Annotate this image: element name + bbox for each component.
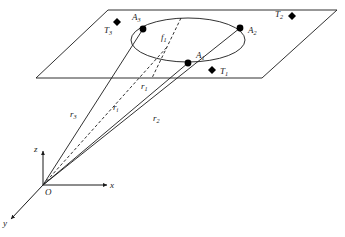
ray-r3 [43, 29, 143, 185]
focal-line-label: f1 [161, 32, 167, 43]
x-axis-label: x [109, 180, 114, 190]
ray-r2 [43, 28, 240, 185]
point-label-A3: A3 [131, 12, 141, 23]
y-axis-label: y [2, 218, 7, 228]
axis-labels: xyzO [2, 144, 114, 228]
ray-r1 [43, 63, 188, 185]
ray-ri [43, 47, 167, 185]
point-label-A2-subscript: 2 [254, 29, 257, 36]
plane-outline [36, 10, 337, 78]
point-label-A3-subscript: 3 [137, 16, 141, 23]
point-label-A1-subscript: 1 [202, 54, 205, 61]
point-label-T1-subscript: 1 [225, 70, 228, 77]
ray-label-ri: ri [113, 102, 119, 113]
point-marker-T3 [113, 18, 121, 26]
point-marker-T1 [208, 66, 216, 74]
ray-label-r3-subscript: 3 [73, 113, 77, 120]
ray-label-ri-subscript: i [117, 106, 119, 113]
ray-label-r3: r3 [70, 109, 77, 120]
point-marker-T2 [288, 12, 296, 20]
footprint-ellipse [131, 18, 245, 62]
point-label-T3-subscript: 3 [108, 29, 112, 36]
ellipse-outline [131, 18, 245, 62]
point-label-T2: T2 [275, 9, 283, 20]
ray-label-r1-subscript: 1 [145, 85, 148, 92]
y-axis [11, 185, 43, 219]
point-label-T2-subscript: 2 [280, 13, 283, 20]
geometry-diagram: r3rir1r2 f1 A1A2A3T1T2T3 xyzO [0, 0, 345, 237]
ray-label-r1: r1 [141, 81, 148, 92]
point-marker-A1 [185, 60, 192, 67]
coordinate-axes [11, 151, 107, 219]
point-label-A1: A1 [195, 50, 205, 61]
focal-line-label-subscript: 1 [164, 36, 167, 43]
focal-line: f1 [152, 18, 181, 78]
point-label-T3: T3 [104, 25, 112, 36]
ray-label-r2-subscript: 2 [157, 117, 160, 124]
image-plane [36, 10, 337, 78]
z-axis-label: z [33, 144, 38, 154]
focal-line-segment [152, 18, 181, 78]
figure-canvas: r3rir1r2 f1 A1A2A3T1T2T3 xyzO [0, 0, 345, 237]
ray-group: r3rir1r2 [43, 28, 240, 185]
point-label-T1: T1 [220, 66, 228, 77]
origin-label: O [45, 187, 52, 197]
point-markers: A1A2A3T1T2T3 [104, 9, 296, 77]
point-marker-A2 [237, 25, 244, 32]
point-marker-A3 [140, 26, 147, 33]
point-label-A2: A2 [247, 25, 257, 36]
ray-label-r2: r2 [153, 113, 160, 124]
